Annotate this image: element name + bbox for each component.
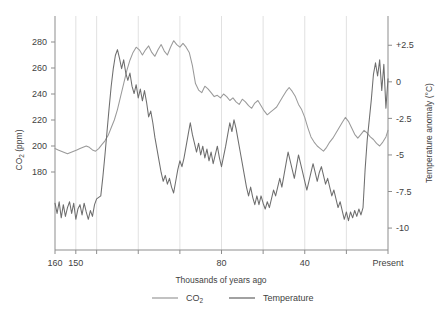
- svg-text:CO2 (ppm): CO2 (ppm): [14, 129, 25, 170]
- left-axis-tick-label: 280: [32, 37, 47, 47]
- left-axis-tick-label: 180: [32, 167, 47, 177]
- legend-label-temperature: Temperature: [263, 293, 314, 303]
- figure-root: F 280260240220200180 +2.50-2.5-5-7.5-10 …: [0, 0, 447, 314]
- x-axis-tick-label: 40: [300, 258, 310, 268]
- right-axis-tick-label: -7.5: [396, 187, 412, 197]
- left-axis-tick-label: 260: [32, 63, 47, 73]
- x-axis-title: Thousands of years ago: [175, 275, 266, 285]
- right-axis-tick-label: -10: [396, 223, 409, 233]
- y-axis-right-title: Temperature anomaly (°C): [424, 83, 434, 183]
- right-axis-tick-label: -5: [396, 150, 404, 160]
- right-axis-tick-label: -2.5: [396, 114, 412, 124]
- left-axis-tick-label: 240: [32, 89, 47, 99]
- x-axis-tick-label: 80: [216, 258, 226, 268]
- x-axis-tick-label: Present: [372, 258, 404, 268]
- left-axis-tick-label: 200: [32, 141, 47, 151]
- left-axis-tick-label: 220: [32, 115, 47, 125]
- x-axis-tick-label: 160: [47, 258, 62, 268]
- x-axis-tick-label: 150: [68, 258, 83, 268]
- co2-temperature-line-chart: 280260240220200180 +2.50-2.5-5-7.5-10 16…: [0, 0, 447, 314]
- right-axis-tick-label: +2.5: [396, 40, 414, 50]
- y-axis-left-title: CO2 (ppm): [14, 129, 25, 170]
- right-axis-tick-label: 0: [396, 77, 401, 87]
